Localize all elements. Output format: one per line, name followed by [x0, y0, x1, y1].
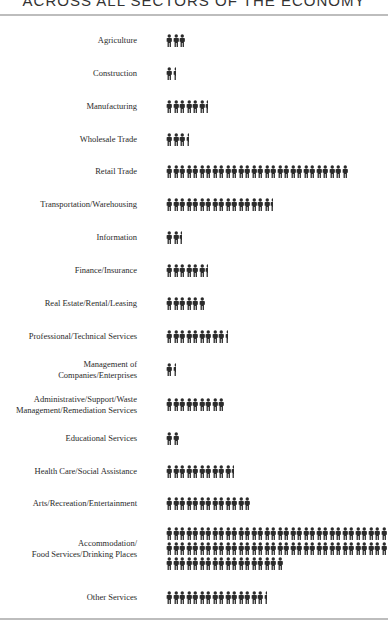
category-label: Accommodation/Food Services/Drinking Pla…: [32, 538, 137, 560]
icon-bar: [166, 133, 388, 146]
person-icon: [264, 591, 267, 604]
person-icon: [173, 363, 176, 376]
person-icon: [381, 542, 388, 555]
bottom-divider: [0, 618, 388, 620]
person-icon: [270, 198, 273, 211]
icon-bar: [166, 231, 388, 244]
category-label: Administrative/Support/WasteManagement/R…: [16, 394, 137, 416]
person-icon: [205, 264, 208, 277]
person-icon: [199, 297, 206, 310]
person-icon: [179, 34, 186, 47]
top-divider: [0, 14, 388, 16]
category-label: Educational Services: [65, 433, 137, 444]
category-label: Information: [96, 232, 137, 243]
category-label: Management ofCompanies/Enterprises: [58, 359, 137, 381]
icon-bar: [166, 100, 388, 113]
icon-bar: [166, 264, 388, 277]
category-label: Wholesale Trade: [80, 134, 137, 145]
icon-bar: [166, 527, 388, 570]
category-label: Agriculture: [98, 35, 137, 46]
person-icon: [179, 231, 182, 244]
icon-bar: [166, 67, 388, 80]
category-label: Arts/Recreation/Entertainment: [33, 498, 137, 509]
person-icon: [173, 67, 176, 80]
category-label: Real Estate/Rental/Leasing: [45, 298, 137, 309]
category-label: Professional/Technical Services: [29, 331, 137, 342]
category-label: Health Care/Social Assistance: [35, 466, 137, 477]
icon-bar: [166, 398, 388, 411]
category-label: Other Services: [87, 592, 137, 603]
icon-bar: [166, 497, 388, 510]
chart-title: ACROSS ALL SECTORS OF THE ECONOMY: [0, 0, 388, 9]
category-label: Retail Trade: [95, 166, 137, 177]
person-icon: [225, 330, 228, 343]
icon-bar: [166, 363, 388, 376]
category-label: Finance/Insurance: [75, 265, 137, 276]
person-icon: [342, 165, 349, 178]
icon-bar: [166, 432, 388, 445]
person-icon: [231, 465, 234, 478]
icon-bar: [166, 198, 388, 211]
person-icon: [173, 432, 180, 445]
icon-bar: [166, 591, 388, 604]
person-icon: [205, 100, 208, 113]
category-label: Manufacturing: [86, 101, 137, 112]
category-label: Construction: [93, 68, 137, 79]
person-icon: [186, 133, 189, 146]
icon-bar: [166, 330, 388, 343]
category-label: Transportation/Warehousing: [40, 199, 137, 210]
icon-bar: [166, 297, 388, 310]
icon-bar: [166, 465, 388, 478]
person-icon: [277, 557, 284, 570]
person-icon: [381, 527, 388, 540]
icon-bar: [166, 34, 388, 47]
person-icon: [244, 497, 251, 510]
icon-bar: [166, 165, 388, 178]
person-icon: [218, 398, 225, 411]
